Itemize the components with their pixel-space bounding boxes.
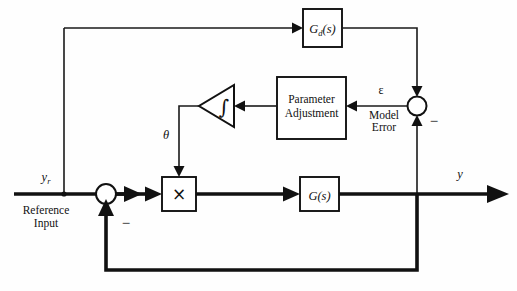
minus-sign-model-error: − [430,113,438,129]
plant-label-main: G [308,189,317,203]
reference-signal-label-subscript: r [47,176,51,186]
reference-model-label-suffix: (s) [323,22,336,36]
reference-input-label-line2: Input [34,217,59,230]
arrowhead-into-integrator [234,101,245,112]
theta-label: θ [163,128,169,142]
reference-branch-junction [61,191,66,196]
minus-sign-input-sum: − [122,215,130,231]
plant-label-suffix: (s) [317,189,330,203]
parameter-adjustment-label-line1: Parameter [288,93,335,105]
reference-signal-label: yr [40,170,52,186]
output-label: y [455,167,463,181]
output-feedback-line [106,194,417,270]
reference-model-label-main: G [309,22,318,36]
reference-model-label: Gd(s) [309,22,335,38]
reference-model-output-line [342,28,417,86]
multiplier-symbol: × [172,184,186,204]
control-system-block-diagram: Gd(s) ε Model Error − Parameter Adjustme… [0,0,517,291]
arrowhead-into-reference-model [292,23,303,34]
arrowhead-into-multiplier-top [174,166,185,177]
block-diagram-canvas: Gd(s) ε Model Error − Parameter Adjustme… [0,0,517,291]
arrowhead-into-model-error-sum-bottom [412,115,423,126]
model-error-label-line1: Model [369,109,399,121]
epsilon-label: ε [378,83,383,97]
arrowhead-into-plant [283,187,300,202]
reference-input-label-line1: Reference [23,204,70,216]
theta-line [179,106,199,167]
plant-label: G(s) [308,189,330,203]
arrowhead-output [487,185,509,203]
arrowhead-into-parameter-adjustment [346,101,357,112]
model-error-summing-junction[interactable] [408,97,427,116]
arrowhead-into-multiplier-left [145,187,162,202]
arrowhead-into-model-error-sum-top [412,86,423,97]
integral-symbol: ∫ [219,95,229,119]
parameter-adjustment-label-line2: Adjustment [285,107,339,120]
model-error-label-line2: Error [372,121,396,133]
